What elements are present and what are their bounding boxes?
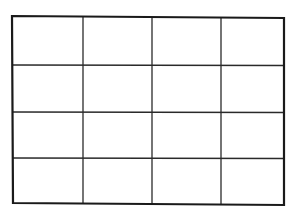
grid-horizontal-line-1 [12,65,284,66]
grid-horizontal-line-2 [13,112,284,113]
grid-horizontal-line-3 [13,158,284,159]
grid-diagram [0,0,299,219]
grid-inner-lines [12,17,284,205]
grid-outer-border [12,16,284,205]
